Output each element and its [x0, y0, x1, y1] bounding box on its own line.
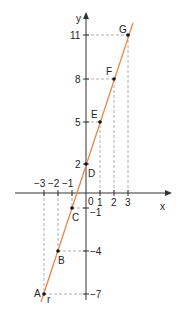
x-axis-label: x [160, 201, 165, 212]
point-label-f: F [106, 66, 112, 77]
axes [15, 16, 168, 300]
point-label-b: B [58, 255, 65, 266]
y-axis-label: y [76, 13, 81, 24]
x-tick-label: −2 [48, 178, 60, 189]
point-f [112, 77, 116, 81]
y-tick-label: 5 [75, 117, 81, 128]
point-c [70, 206, 74, 210]
y-tick-label: 2 [75, 159, 81, 170]
point-label-a: A [34, 288, 41, 299]
point-label-d: D [88, 168, 95, 179]
x-arrow-icon [165, 190, 172, 196]
line-r [41, 23, 133, 302]
y-arrow-icon [83, 12, 89, 19]
point-a [42, 292, 46, 296]
point-b [56, 249, 60, 253]
origin-label: 0 [88, 196, 94, 207]
x-tick-label: 2 [111, 197, 117, 208]
point-label-e: E [91, 109, 98, 120]
y-tick-label: −7 [90, 289, 102, 300]
y-tick-label: 8 [75, 74, 81, 85]
x-tick-label: 3 [125, 197, 131, 208]
y-tick-label: −1 [90, 207, 102, 218]
point-e [98, 120, 102, 124]
point-label-c: C [72, 212, 79, 223]
x-tick-label: −3 [34, 178, 46, 189]
line-label-r: r [47, 294, 51, 305]
point-label-g: G [119, 24, 127, 35]
y-tick-label: 11 [70, 30, 81, 41]
y-tick-label: −4 [90, 246, 102, 257]
point-d [84, 162, 88, 166]
coordinate-plane: x y 0 −3 −2 −1 1 2 3 11 8 5 2 −1 −4 −7 A… [0, 0, 184, 331]
x-tick-label: −1 [62, 178, 74, 189]
